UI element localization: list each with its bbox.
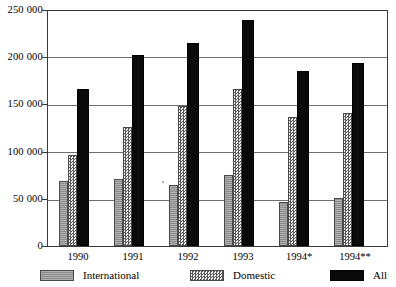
- y-tick-label-150000: 150 000: [7, 99, 43, 109]
- bar-domestic-1994a: [288, 117, 297, 246]
- legend-entry-all: All: [330, 267, 387, 283]
- bar-international-1992: [169, 185, 178, 246]
- y-tick-label-50000: 50 000: [13, 194, 43, 204]
- x-tick-label-1994a: 1994*: [276, 251, 322, 263]
- y-tick-label-100000: 100 000: [7, 147, 43, 157]
- bar-domestic-1990: [68, 155, 77, 246]
- gridline-100000: [48, 152, 387, 153]
- bar-domestic-1994b: [343, 113, 352, 246]
- gridline-150000: [48, 105, 387, 106]
- x-tick-label-1991: 1991: [111, 251, 155, 263]
- bar-all-1994a: [297, 71, 309, 246]
- legend-entry-international: International: [40, 267, 139, 283]
- legend-swatch-domestic-icon: [190, 270, 224, 281]
- x-tick-label-1992: 1992: [166, 251, 210, 263]
- bar-all-1994b: [352, 63, 364, 246]
- plot-area: [47, 10, 388, 247]
- bar-chart: 250 000 200 000 150 000 100 000 50 000 0: [0, 0, 396, 287]
- bar-all-1991: [132, 55, 144, 246]
- bar-international-1990: [59, 181, 68, 246]
- legend-entry-domestic: Domestic: [190, 267, 275, 283]
- legend-swatch-all-icon: [330, 270, 364, 281]
- bar-international-1993: [224, 175, 233, 246]
- x-tick-label-1994b: 1994**: [330, 251, 380, 263]
- scan-speck-artifact: [162, 181, 164, 183]
- chart-legend: International Domestic All: [0, 267, 396, 285]
- bar-all-1990: [77, 89, 89, 246]
- bar-domestic-1993: [233, 89, 242, 246]
- bar-international-1994b: [334, 198, 343, 246]
- x-tick-label-1993: 1993: [221, 251, 265, 263]
- bar-all-1992: [187, 43, 199, 246]
- x-tick-label-1990: 1990: [56, 251, 100, 263]
- bar-international-1991: [114, 179, 123, 246]
- bar-international-1994a: [279, 202, 288, 246]
- bar-domestic-1992: [178, 106, 187, 246]
- y-tick-label-200000: 200 000: [7, 52, 43, 62]
- legend-label-all: All: [373, 269, 387, 281]
- legend-label-international: International: [83, 269, 139, 281]
- bar-domestic-1991: [123, 127, 132, 246]
- bar-all-1993: [242, 20, 254, 246]
- legend-label-domestic: Domestic: [233, 269, 275, 281]
- gridline-200000: [48, 57, 387, 58]
- legend-swatch-international-icon: [40, 270, 74, 281]
- y-tick-label-250000: 250 000: [7, 5, 43, 15]
